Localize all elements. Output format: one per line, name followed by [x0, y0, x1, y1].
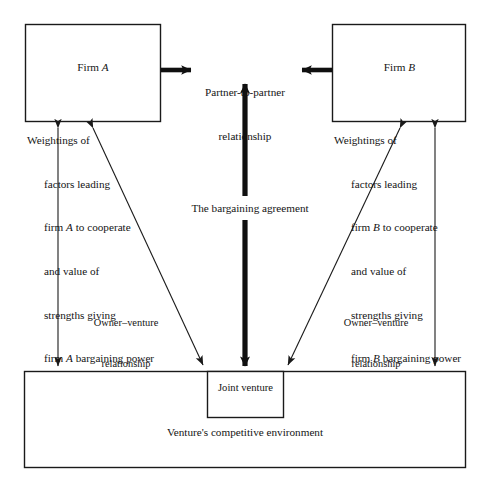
- joint-venture-label: Joint venture: [208, 381, 283, 395]
- firm-b-line-1: Weightings of: [334, 133, 465, 148]
- diagram-canvas-container: Firm A Weightings of factors leading fir…: [0, 0, 489, 487]
- owner-venture-left-line-2: relationship: [76, 357, 176, 371]
- owner-venture-left-label: Owner–venture relationship: [76, 289, 176, 397]
- firm-a-line-1: Weightings of: [27, 133, 159, 148]
- partner-label-line-2: relationship: [185, 129, 305, 144]
- firm-b-line-2: factors leading: [334, 177, 465, 192]
- firm-a-line-2: factors leading: [27, 177, 159, 192]
- owner-venture-right-label: Owner–venture relationship: [326, 289, 426, 397]
- firm-a-line-3: firm A to cooperate: [27, 220, 159, 235]
- bargaining-agreement-label: The bargaining agreement: [180, 199, 320, 218]
- partner-to-partner-label: Partner-to-partner relationship: [185, 56, 305, 173]
- firm-b-title: Firm B: [334, 60, 465, 75]
- firm-a-line-4: and value of: [27, 264, 159, 279]
- owner-venture-left-line-1: Owner–venture: [76, 316, 176, 330]
- partner-label-line-1: Partner-to-partner: [185, 85, 305, 100]
- firm-a-title: Firm A: [27, 60, 159, 75]
- owner-venture-right-line-2: relationship: [326, 357, 426, 371]
- owner-venture-right-line-1: Owner–venture: [326, 316, 426, 330]
- venture-environment-label: Venture's competitive environment: [105, 425, 385, 440]
- firm-b-line-3: firm B to cooperate: [334, 220, 465, 235]
- firm-b-line-4: and value of: [334, 264, 465, 279]
